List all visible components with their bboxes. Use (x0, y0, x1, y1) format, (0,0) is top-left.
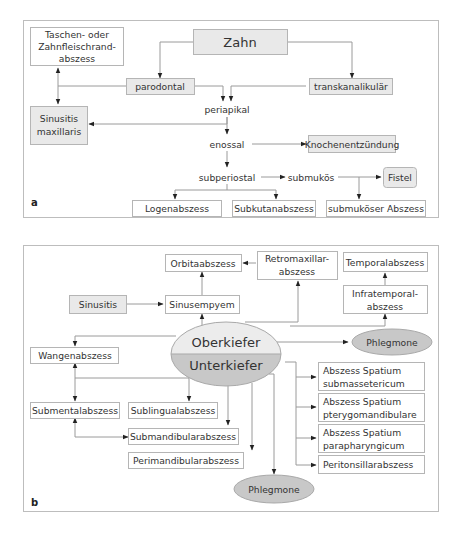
node-retromaxillarabszess: Retromaxillar- abszess (258, 252, 338, 280)
svg-text:Taschen- oder: Taschen- oder (44, 29, 109, 40)
svg-text:submuköser Abszess: submuköser Abszess (328, 203, 424, 214)
svg-text:Sinusempyem: Sinusempyem (169, 299, 234, 310)
node-zahn: Zahn (194, 30, 288, 55)
node-kiefer-ellipse: Oberkiefer Unterkiefer (171, 322, 281, 386)
node-sinusitis-maxillaris: Sinusitis maxillaris (31, 107, 88, 145)
svg-text:maxillaris: maxillaris (37, 126, 82, 137)
node-sinusempyem: Sinusempyem (166, 296, 240, 314)
node-subkutanabszess: Subkutanabszess (233, 201, 316, 217)
unterkiefer-label: Unterkiefer (189, 358, 263, 373)
panel-b: Orbitaabszess Retromaxillar- abszess Tem… (24, 246, 439, 512)
node-infratemporalabszess: Infratemporal- abszess (344, 286, 428, 314)
svg-text:parapharyngicum: parapharyngicum (323, 440, 404, 451)
svg-text:Abszess Spatium: Abszess Spatium (323, 396, 401, 407)
svg-text:Sublingualabszess: Sublingualabszess (131, 405, 216, 416)
svg-text:Submentalabszess: Submentalabszess (32, 405, 118, 416)
svg-text:Subkutanabszess: Subkutanabszess (234, 203, 314, 214)
svg-text:periapikal: periapikal (204, 104, 249, 115)
node-wangenabszess: Wangenabszess (31, 348, 119, 364)
node-sublingualabszess: Sublingualabszess (129, 403, 218, 419)
node-perimandibularabszess: Perimandibularabszess (129, 453, 244, 469)
svg-text:pterygomandibulare: pterygomandibulare (323, 409, 417, 420)
svg-text:Phlegmone: Phlegmone (366, 337, 418, 348)
svg-text:Perimandibularabszess: Perimandibularabszess (133, 455, 239, 466)
svg-text:Sinusitis: Sinusitis (79, 299, 118, 310)
node-subperiostal: subperiostal (199, 172, 255, 183)
svg-text:Abszess Spatium: Abszess Spatium (323, 427, 401, 438)
svg-text:Peritonsillarabszess: Peritonsillarabszess (323, 459, 414, 470)
svg-text:Phlegmone: Phlegmone (248, 484, 300, 495)
node-fistel: Fistel (384, 168, 417, 188)
svg-text:Submandibularabszess: Submandibularabszess (130, 431, 236, 442)
svg-text:submassetericum: submassetericum (323, 378, 405, 389)
svg-text:Zahnfleischrand-: Zahnfleischrand- (38, 41, 116, 52)
node-submentalabszess: Submentalabszess (31, 403, 120, 419)
node-knochenentzuendung: Knochenentzündung (305, 136, 400, 153)
svg-text:Abszess Spatium: Abszess Spatium (323, 365, 401, 376)
svg-text:transkanalikulär: transkanalikulär (314, 81, 388, 92)
node-enossal: enossal (210, 139, 245, 150)
node-sinusitis: Sinusitis (70, 296, 127, 314)
node-phlegmone-top: Phlegmone (352, 329, 432, 355)
svg-text:submukös: submukös (288, 172, 335, 183)
node-submandibularabszess: Submandibularabszess (129, 429, 239, 445)
svg-text:abszess: abszess (367, 301, 404, 312)
svg-text:Sinusitis: Sinusitis (40, 113, 79, 124)
svg-text:Logenabszess: Logenabszess (145, 203, 209, 214)
node-transkanalikular: transkanalikulär (310, 79, 393, 95)
svg-text:Fistel: Fistel (388, 172, 412, 183)
node-logenabszess: Logenabszess (133, 201, 222, 217)
svg-text:Temporalabszess: Temporalabszess (345, 257, 425, 268)
svg-text:Retromaxillar-: Retromaxillar- (265, 253, 329, 264)
node-spatium-pterygomandibulare: Abszess Spatium pterygomandibulare (319, 394, 425, 422)
node-taschen-abszess: Taschen- oder Zahnfleischrand- abszess (31, 28, 124, 66)
oberkiefer-label: Oberkiefer (192, 335, 262, 350)
svg-text:abszess: abszess (279, 266, 316, 277)
svg-text:Wangenabszess: Wangenabszess (38, 350, 112, 361)
svg-text:Knochenentzündung: Knochenentzündung (305, 139, 400, 150)
node-spatium-submassetericum: Abszess Spatium submassetericum (319, 363, 425, 391)
node-peritonsillarabszess: Peritonsillarabszess (319, 456, 425, 474)
node-spatium-parapharyngicum: Abszess Spatium parapharyngicum (319, 425, 425, 453)
node-parodontal: parodontal (127, 79, 195, 95)
svg-text:enossal: enossal (210, 139, 245, 150)
node-phlegmone-bottom: Phlegmone (234, 475, 314, 503)
svg-text:abszess: abszess (59, 53, 96, 64)
node-periapikal: periapikal (204, 104, 249, 115)
panel-a: Zahn Taschen- oder Zahnfleischrand- absz… (24, 21, 439, 218)
svg-text:Zahn: Zahn (223, 35, 256, 50)
node-temporalabszess: Temporalabszess (344, 253, 428, 272)
svg-text:subperiostal: subperiostal (199, 172, 255, 183)
panel-label-a: a (31, 197, 38, 208)
node-submukos: submukös (288, 172, 335, 183)
svg-text:Orbitaabszess: Orbitaabszess (171, 258, 236, 269)
svg-text:parodontal: parodontal (135, 81, 185, 92)
node-submukoser-abszess: submuköser Abszess (327, 201, 426, 217)
node-orbitaabszess: Orbitaabszess (166, 255, 242, 272)
panel-label-b: b (31, 497, 38, 508)
svg-text:Infratemporal-: Infratemporal- (352, 288, 418, 299)
